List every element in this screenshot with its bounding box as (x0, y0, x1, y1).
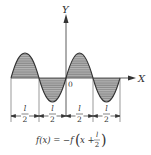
y-axis-arrow-icon (64, 14, 69, 23)
segment-label: l 2 (21, 104, 29, 126)
svg-text:2: 2 (50, 115, 55, 124)
svg-text:l: l (78, 104, 81, 113)
svg-text:l: l (24, 104, 27, 113)
segment-label: l 2 (49, 104, 57, 126)
svg-text:2: 2 (23, 115, 28, 124)
svg-text:): ) (101, 132, 106, 148)
svg-text:2: 2 (104, 115, 109, 124)
formula-lhs: f(x) = −f (35, 135, 75, 145)
odd-half-wave-symmetry-diagram: Y X 0 l 2 l 2 l 2 l (0, 0, 151, 155)
svg-text:l: l (51, 104, 54, 113)
y-axis-label: Y (62, 4, 70, 15)
formula: f(x) = −f ( x + l 2 ) (35, 131, 106, 149)
x-axis-arrow-icon (128, 76, 136, 81)
svg-text:l: l (96, 131, 98, 139)
svg-text:2: 2 (95, 141, 99, 149)
x-axis-label: X (137, 73, 146, 84)
segment-label: l 2 (103, 104, 111, 126)
segment-label: l 2 (76, 104, 84, 126)
y-axis (64, 14, 69, 116)
svg-text:l: l (105, 104, 108, 113)
origin-label: 0 (68, 80, 73, 89)
svg-text:2: 2 (77, 115, 82, 124)
shaded-area (11, 53, 120, 102)
formula-arg: x + (80, 135, 95, 145)
